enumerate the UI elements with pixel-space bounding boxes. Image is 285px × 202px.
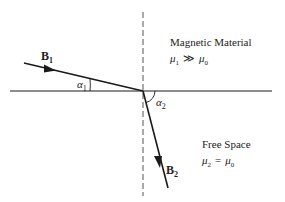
- magnetic-material-title: Magnetic Material: [170, 36, 252, 48]
- free-space-relation: μ2=μ0: [201, 154, 235, 169]
- b2-arrowhead: [154, 156, 162, 168]
- boundary-diagram: B1 α1 α2 B2 Magnetic Material μ1≫μ0 Free…: [0, 0, 285, 202]
- b2-label: B2: [166, 163, 178, 179]
- alpha2-label: α2: [156, 96, 166, 111]
- free-space-title: Free Space: [202, 138, 251, 150]
- b1-arrowhead: [44, 65, 56, 73]
- magnetic-material-relation: μ1≫μ0: [169, 52, 209, 67]
- b1-label: B1: [41, 49, 53, 65]
- alpha2-arc: [146, 91, 155, 103]
